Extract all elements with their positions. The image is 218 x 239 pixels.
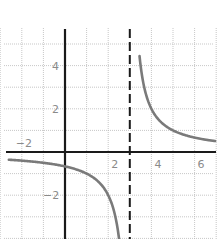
x-tick-label: 2 [111, 158, 118, 171]
x-tick-label: 4 [154, 158, 161, 171]
x-tick-label: 6 [198, 158, 205, 171]
curves [9, 56, 215, 239]
function-graph: −224642−2 [0, 0, 218, 239]
y-tick-label: −2 [43, 189, 59, 202]
y-tick-label: 4 [52, 60, 59, 73]
curve-right-branch [140, 56, 216, 141]
y-tick-label: 2 [52, 103, 59, 116]
x-tick-label: −2 [16, 137, 32, 150]
